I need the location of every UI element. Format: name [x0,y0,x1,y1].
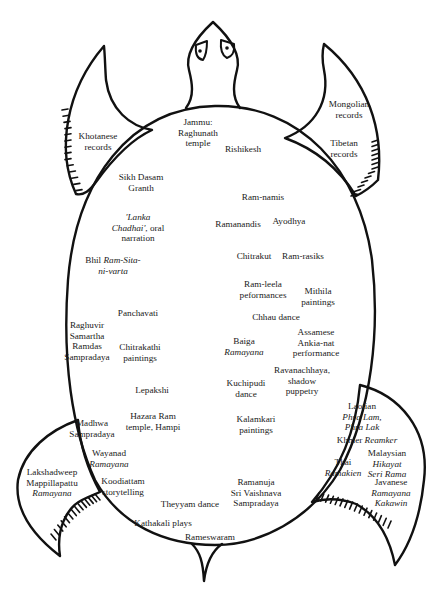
label-hazara: Hazara Ramtemple, Hampi [126,411,181,432]
turtle-head [186,22,240,108]
label-thai: ThaiRamakien [325,457,362,478]
label-jammu: Jammu:Raghunathtemple [178,117,218,149]
label-assamese: AssameseAnkia-natperformance [293,327,339,359]
label-rameswaram: Rameswaram [185,532,235,543]
label-lanka: 'LankaChadhai', oralnarration [112,212,165,244]
label-kuchipudi: Kuchipudidance [227,378,266,399]
label-lakshadweep: LakshadweepMappillapattuRamayana [26,467,78,499]
label-chitrakathi: Chitrakathipaintings [119,342,160,363]
label-ravanachhaya: Ravanachhaya,shadowpuppetry [274,365,330,397]
label-ayodhya: Ayodhya [273,216,306,227]
label-ramnamis: Ram-namis [242,192,284,203]
label-javanese: JavaneseRamayanaKakawin [371,477,410,509]
label-mongolian: Mongolianrecords [329,99,369,120]
label-koodiattam: Koodiattamstorytelling [101,476,144,497]
label-madhwa: MadhwaSampradaya [69,418,114,439]
label-chhau: Chhau dance [252,312,300,323]
label-lepakshi: Lepakshi [135,385,169,396]
label-laotian: LaotianPhra Lam,Phra Lak [342,401,381,433]
label-kathakali: Kathakali plays [134,518,191,529]
label-tibetan: Tibetanrecords [330,138,358,159]
label-kalamkari: Kalamkaripaintings [237,414,276,435]
label-baiga: BaigaRamayana [224,336,263,357]
turtle-tail [192,544,222,581]
label-khotanese: Khotaneserecords [79,131,118,152]
label-khmer: Khmer Reamker [337,435,397,446]
label-theyyam: Theyyam dance [161,499,219,510]
label-ramrasiks: Ram-rasiks [282,251,324,262]
label-panchavati: Panchavati [118,308,158,319]
label-ramanandis: Ramanandis [215,219,260,230]
label-bhil: Bhil Ram-Sita-ni-varta [85,255,140,276]
label-sikh: Sikh DasamGranth [119,172,164,193]
turtle-diagram [0,0,435,607]
label-chitrakut: Chitrakut [237,251,272,262]
label-ramanuja: RamanujaSri VaishnavaSampradaya [231,477,282,509]
label-malaysian: MalaysianHikayatSeri Rama [368,448,407,480]
left-pupil [198,49,202,53]
label-rishikesh: Rishikesh [225,144,261,155]
label-wayanad: WayanadRamayana [89,448,128,469]
label-raghuvir: RaghuvirSamarthaRamdasSampradaya [64,320,109,362]
right-front-flipper [285,44,379,196]
right-pupil [225,46,229,50]
label-mithila: Mithilapaintings [301,286,335,307]
label-ramleela: Ram-leelapeformances [240,279,287,300]
